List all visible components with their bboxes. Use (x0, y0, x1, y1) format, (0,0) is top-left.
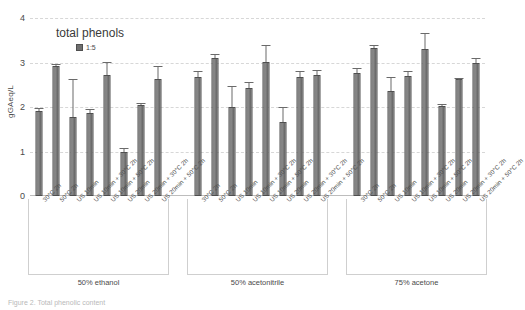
error-bar (124, 149, 125, 153)
error-bar-cap (279, 107, 288, 108)
error-bar (407, 72, 408, 76)
error-bar (89, 110, 90, 113)
error-bar-cap (68, 79, 77, 80)
error-bar (476, 59, 477, 63)
error-bar-cap (244, 82, 253, 83)
group-label: 50% acetonitrile (187, 278, 328, 287)
bar[interactable] (387, 91, 394, 196)
group-box (187, 199, 328, 275)
error-bar-cap (403, 71, 412, 72)
error-bar (107, 63, 108, 75)
error-bar (231, 87, 232, 107)
error-bar-cap (386, 77, 395, 78)
error-bar-cap (193, 71, 202, 72)
group-box (28, 199, 169, 275)
y-axis-label: gGAeq/L (6, 85, 15, 118)
bar[interactable] (404, 76, 411, 196)
figure-caption: Figure 2. Total phenolic content (8, 299, 105, 306)
bar[interactable] (35, 111, 42, 196)
error-bar-cap (210, 54, 219, 55)
y-axis-tick: 3 (20, 58, 25, 68)
error-bar-cap (455, 78, 464, 79)
bar-slot[interactable] (47, 18, 64, 196)
error-bar-cap (51, 64, 60, 65)
error-bar (283, 108, 284, 121)
chart-title: total phenols (56, 26, 124, 40)
bar[interactable] (52, 66, 59, 196)
error-bar (38, 109, 39, 112)
error-bar-cap (262, 45, 271, 46)
legend-swatch-icon (76, 44, 83, 51)
legend: 1:5 (76, 44, 96, 51)
bar-slot[interactable] (309, 18, 326, 196)
error-bar-cap (438, 104, 447, 105)
bar[interactable] (422, 49, 429, 196)
error-bar-cap (369, 45, 378, 46)
bar-slot[interactable] (258, 18, 275, 196)
error-bar-cap (85, 109, 94, 110)
error-bar-cap (472, 58, 481, 59)
error-bar-cap (313, 70, 322, 71)
bar[interactable] (370, 48, 377, 196)
bar[interactable] (194, 77, 201, 196)
bar[interactable] (473, 63, 480, 197)
error-bar (158, 67, 159, 79)
error-bar-cap (421, 33, 430, 34)
error-bar (442, 105, 443, 106)
y-axis-tick: 2 (20, 102, 25, 112)
bar-slot[interactable] (206, 18, 223, 196)
bar-series (30, 18, 485, 196)
y-axis-tick: 4 (20, 13, 25, 23)
legend-label: 1:5 (86, 44, 96, 51)
error-bar (317, 71, 318, 75)
bar[interactable] (211, 58, 218, 196)
bar-slot[interactable] (240, 18, 257, 196)
bar[interactable] (353, 73, 360, 196)
bar[interactable] (263, 62, 270, 196)
bar-slot[interactable] (150, 18, 167, 196)
group-box (346, 199, 487, 275)
error-bar (300, 72, 301, 76)
error-bar-cap (137, 103, 146, 104)
error-bar (141, 104, 142, 105)
error-bar-cap (154, 66, 163, 67)
error-bar-cap (227, 86, 236, 87)
error-bar-cap (352, 68, 361, 69)
group-label: 75% acetone (346, 278, 487, 287)
group-label: 50% ethanol (28, 278, 169, 287)
error-bar (248, 83, 249, 88)
error-bar (390, 78, 391, 90)
error-bar (373, 46, 374, 48)
error-bar (425, 34, 426, 49)
error-bar-cap (296, 71, 305, 72)
bar-slot[interactable] (365, 18, 382, 196)
error-bar-cap (103, 62, 112, 63)
error-bar (356, 69, 357, 73)
bar-slot[interactable] (382, 18, 399, 196)
y-axis-tick: 1 (20, 147, 25, 157)
plot-area: 01234 (30, 18, 485, 196)
bar-slot[interactable] (30, 18, 47, 196)
bar-slot[interactable] (468, 18, 485, 196)
error-bar-cap (34, 108, 43, 109)
error-bar (459, 79, 460, 80)
error-bar-cap (120, 148, 129, 149)
bar-slot[interactable] (399, 18, 416, 196)
bar-slot[interactable] (417, 18, 434, 196)
bar-slot[interactable] (223, 18, 240, 196)
y-axis-tick: 0 (20, 191, 25, 201)
error-bar (55, 65, 56, 66)
error-bar (214, 55, 215, 58)
bar-slot[interactable] (99, 18, 116, 196)
bar[interactable] (314, 75, 321, 196)
bar[interactable] (104, 75, 111, 196)
error-bar (197, 72, 198, 76)
error-bar (266, 46, 267, 62)
error-bar (72, 80, 73, 117)
bar[interactable] (297, 77, 304, 196)
